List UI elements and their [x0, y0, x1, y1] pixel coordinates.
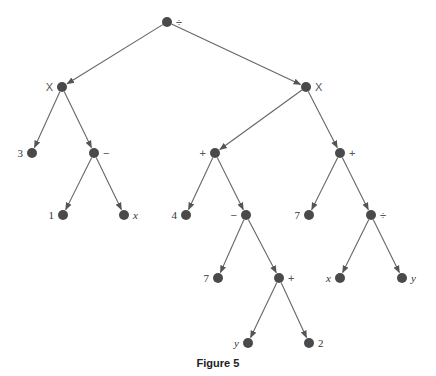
- tree-node: 7: [295, 209, 315, 221]
- node-label: X: [315, 81, 323, 93]
- node-dot: [213, 273, 223, 283]
- node-dot: [274, 273, 284, 283]
- node-dot: [210, 148, 220, 158]
- node-label: −: [231, 209, 237, 221]
- node-label: x: [132, 209, 138, 221]
- tree-node: 1: [49, 209, 69, 221]
- figure-caption: Figure 5: [0, 357, 436, 369]
- tree-edges: [34, 24, 399, 337]
- tree-edge: [67, 25, 163, 84]
- node-label: x: [325, 272, 331, 284]
- tree-node: ÷: [162, 16, 182, 28]
- tree-edge: [66, 157, 92, 209]
- tree-edge: [189, 158, 213, 210]
- tree-edge: [343, 219, 369, 272]
- node-label: 7: [204, 272, 210, 284]
- tree-node: x: [325, 272, 345, 284]
- tree-node: +: [335, 147, 355, 159]
- tree-node: 3: [18, 147, 38, 159]
- node-label: y: [233, 337, 239, 349]
- tree-edge: [248, 219, 276, 272]
- tree-edge: [217, 157, 243, 209]
- node-dot: [304, 210, 314, 220]
- node-label: 1: [49, 209, 55, 221]
- node-label: −: [103, 147, 109, 159]
- tree-node: +: [274, 272, 294, 284]
- expression-tree: ÷XX3−1x++4−7÷7+xyy2: [0, 0, 436, 376]
- node-dot: [301, 82, 311, 92]
- node-label: +: [349, 147, 355, 159]
- node-dot: [162, 17, 172, 27]
- tree-edge: [64, 91, 91, 147]
- tree-node: 2: [304, 337, 324, 349]
- node-label: 4: [172, 209, 178, 221]
- node-dot: [304, 338, 314, 348]
- node-dot: [335, 273, 345, 283]
- node-label: 7: [295, 209, 301, 221]
- tree-edge: [342, 157, 368, 209]
- tree-node: X: [301, 81, 323, 93]
- node-dot: [181, 210, 191, 220]
- tree-node: +: [200, 147, 220, 159]
- tree-node: y: [233, 337, 253, 349]
- node-label: 2: [318, 337, 324, 349]
- node-label: +: [288, 272, 294, 284]
- tree-node: 7: [204, 272, 224, 284]
- node-dot: [243, 338, 253, 348]
- node-label: +: [200, 147, 206, 159]
- tree-node: ÷: [366, 209, 386, 221]
- tree-edge: [172, 24, 301, 84]
- node-label: y: [410, 272, 416, 284]
- tree-node: 4: [172, 209, 192, 221]
- tree-edge: [281, 283, 306, 338]
- node-dot: [27, 148, 37, 158]
- node-label: X: [46, 81, 54, 93]
- node-dot: [58, 210, 68, 220]
- node-dot: [397, 273, 407, 283]
- tree-node: X: [46, 81, 67, 93]
- tree-node: −: [231, 209, 251, 221]
- node-label: ÷: [176, 16, 182, 28]
- tree-edge: [308, 91, 337, 147]
- node-dot: [119, 210, 129, 220]
- tree-edge: [220, 220, 244, 273]
- tree-edge: [373, 219, 399, 272]
- node-dot: [366, 210, 376, 220]
- tree-edge: [312, 157, 338, 209]
- node-dot: [89, 148, 99, 158]
- tree-edge: [34, 92, 59, 148]
- tree-edge: [96, 158, 121, 210]
- node-dot: [57, 82, 67, 92]
- tree-node: y: [397, 272, 416, 284]
- node-dot: [335, 148, 345, 158]
- tree-edge: [251, 283, 277, 338]
- tree-nodes: ÷XX3−1x++4−7÷7+xyy2: [18, 16, 417, 349]
- tree-node: −: [89, 147, 109, 159]
- tree-node: x: [119, 209, 138, 221]
- tree-edge: [220, 90, 302, 150]
- node-label: 3: [18, 147, 24, 159]
- node-label: ÷: [380, 209, 386, 221]
- node-dot: [241, 210, 251, 220]
